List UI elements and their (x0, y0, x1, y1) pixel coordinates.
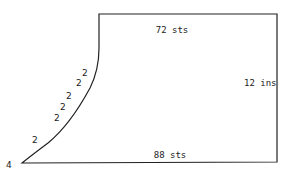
bottom-width-label: 88 sts (154, 150, 187, 160)
corner-count-label: 4 (6, 160, 12, 170)
schematic-outline (22, 14, 277, 163)
decrease-step: 2 (76, 78, 82, 88)
height-label: 12 ins (244, 78, 277, 88)
decrease-step: 2 (82, 68, 88, 78)
decrease-step: 2 (60, 102, 66, 112)
decrease-step: 2 (32, 135, 38, 145)
top-width-label: 72 sts (156, 25, 189, 35)
decrease-step: 2 (66, 91, 72, 101)
decrease-step: 2 (54, 113, 60, 123)
